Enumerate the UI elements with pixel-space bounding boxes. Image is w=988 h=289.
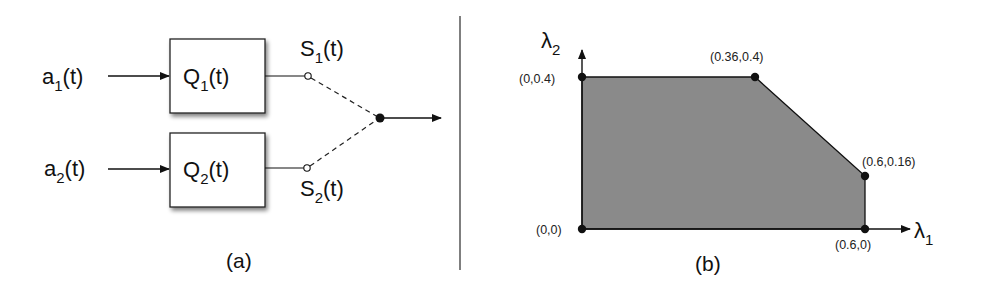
switch-dashed-line-1	[311, 78, 378, 117]
panel-a-caption: (a)	[226, 249, 252, 272]
vertex-dot-0.36-0.4-icon	[751, 73, 759, 81]
vertex-dot-0.6-0.16-icon	[861, 172, 869, 180]
switch-dashed-line-2	[310, 119, 378, 166]
switch-contact-1-icon	[305, 73, 311, 79]
service-label-s1: S1(t)	[300, 36, 344, 66]
switch-pivot-dot-icon	[376, 114, 385, 123]
vertex-label-0.36-0.4: (0.36,0.4)	[710, 50, 764, 64]
vertex-label-origin: (0,0)	[536, 223, 562, 237]
service-label-s2: S2(t)	[300, 176, 344, 206]
panel-b-caption: (b)	[695, 252, 721, 275]
x-axis-label: λ1	[914, 218, 933, 248]
vertex-label-0.6-0.16: (0.6,0.16)	[862, 155, 916, 169]
switch-contact-2-icon	[304, 165, 310, 171]
vertex-dot-origin-icon	[578, 225, 586, 233]
vertex-label-0-0.4: (0,0.4)	[519, 72, 555, 86]
panel-b-capacity-region: λ2 λ1 (0,0) (0,0.4) (0.36,0.4) (0.6,0.16…	[519, 28, 933, 275]
input-label-a1: a1(t)	[42, 64, 83, 94]
vertex-dot-0.6-0-icon	[861, 225, 869, 233]
capacity-region-polygon	[582, 77, 865, 229]
panel-a-queue-diagram: a1(t) a2(t) Q1(t) Q2(t) S1(t) S2(t) (a)	[42, 36, 441, 272]
input-label-a2: a2(t)	[44, 156, 85, 186]
vertex-dot-0-0.4-icon	[578, 73, 586, 81]
figure: a1(t) a2(t) Q1(t) Q2(t) S1(t) S2(t) (a)	[0, 0, 988, 289]
vertex-label-0.6-0: (0.6,0)	[835, 238, 871, 252]
y-axis-label: λ2	[541, 28, 560, 58]
